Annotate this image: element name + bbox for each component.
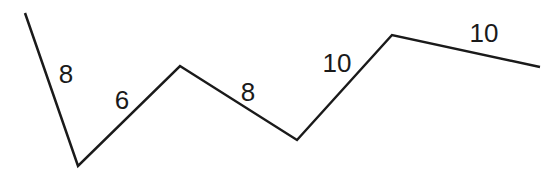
segment-label-2: 6: [115, 85, 129, 115]
segment-label-3: 8: [241, 77, 255, 107]
zigzag-path: [25, 13, 540, 166]
segment-label-1: 8: [59, 59, 73, 89]
segment-label-4: 10: [323, 48, 352, 78]
polyline-diagram: 8 6 8 10 10: [0, 0, 548, 178]
segment-label-5: 10: [470, 18, 499, 48]
